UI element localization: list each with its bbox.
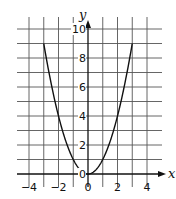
x-tick-label: 2 bbox=[114, 181, 121, 194]
x-axis-arrow-icon bbox=[158, 171, 166, 177]
y-tick-label: 0 bbox=[79, 168, 86, 181]
y-tick-label: 8 bbox=[79, 52, 86, 65]
x-tick-label: 0 bbox=[85, 181, 92, 194]
x-tick-label: −2 bbox=[50, 181, 66, 194]
x-tick-label: −4 bbox=[21, 181, 37, 194]
x-tick-label: 4 bbox=[144, 181, 151, 194]
y-tick-label: 6 bbox=[79, 81, 86, 94]
y-tick-label: 10 bbox=[72, 23, 86, 36]
parabola-chart: xy−4−20240246810 bbox=[0, 0, 176, 199]
x-axis-label: x bbox=[168, 166, 176, 181]
grid bbox=[17, 17, 162, 187]
y-tick-label: 4 bbox=[79, 110, 86, 123]
axes bbox=[17, 20, 166, 187]
y-tick-label: 2 bbox=[79, 139, 86, 152]
y-axis-label: y bbox=[78, 7, 87, 22]
